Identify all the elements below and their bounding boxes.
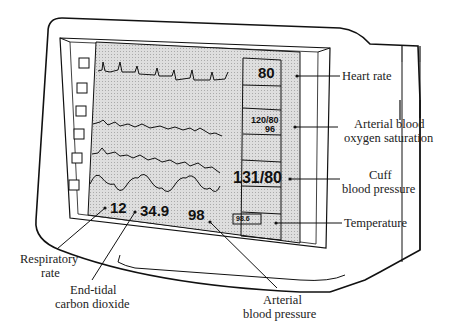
respiratory-rate-value: 12 bbox=[110, 199, 127, 216]
label-resp-line2: rate bbox=[41, 266, 60, 281]
label-etco2-line1: End-tidal bbox=[70, 283, 117, 298]
heart-rate-value: 80 bbox=[258, 64, 275, 81]
label-etco2-line2: carbon dioxide bbox=[55, 297, 130, 312]
oxygen-saturation-value: 96 bbox=[265, 124, 275, 134]
temperature-value: 98.6 bbox=[236, 215, 250, 222]
label-cuff-line1: Cuff bbox=[369, 168, 392, 183]
label-oxygen-line1: Arterial blood bbox=[354, 117, 424, 132]
etco2-value: 34.9 bbox=[140, 202, 169, 219]
arterial-bp-mean-value: 98 bbox=[188, 206, 205, 223]
cuff-bp-value: 131/80 bbox=[233, 169, 282, 187]
label-abp-line1: Arterial bbox=[263, 293, 302, 308]
label-temperature: Temperature bbox=[344, 216, 407, 231]
label-heart-rate: Heart rate bbox=[342, 69, 392, 84]
label-oxygen-line2: oxygen saturation bbox=[344, 131, 433, 146]
label-cuff-line2: blood pressure bbox=[342, 182, 415, 197]
label-abp-line2: blood pressure bbox=[243, 307, 316, 322]
label-resp-line1: Respiratory bbox=[20, 252, 78, 267]
monitor-drawing bbox=[0, 0, 456, 334]
